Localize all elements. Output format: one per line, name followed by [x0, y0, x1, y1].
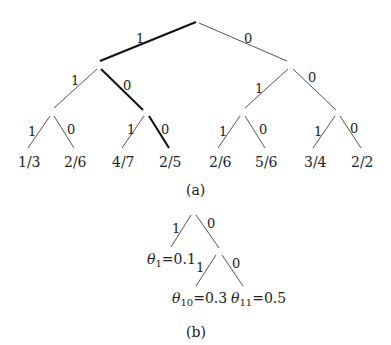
edge-label: 0 — [259, 122, 267, 137]
leaf-theta-10: θ10=0.3 — [172, 290, 227, 308]
edge-label: 0 — [161, 122, 169, 137]
edge-l2-1 — [245, 69, 288, 108]
leaf-theta-11: θ11=0.5 — [231, 290, 286, 308]
edge-root-0 — [199, 23, 287, 61]
tree-diagrams: 1 0 1 0 1 0 1 0 1 0 1 0 1 0 1/3 2/6 4/7 … — [0, 0, 391, 345]
tree-b: 1 0 1 0 θ1=0.1 θ10=0.3 θ11=0.5 (b) — [147, 215, 286, 340]
edge-label: 0 — [207, 216, 215, 231]
leaf-value: 4/7 — [112, 154, 135, 170]
edge-label: 1 — [314, 124, 322, 139]
edge-label: 0 — [123, 78, 131, 93]
edge-label: 1 — [28, 124, 36, 139]
edge-root-1 — [100, 22, 196, 61]
edge-label: 0 — [232, 256, 240, 271]
edge-label: 1 — [196, 260, 204, 275]
leaf-value: 5/6 — [255, 154, 278, 170]
edge-label: 1 — [71, 73, 79, 88]
leaf-value: 2/6 — [209, 154, 232, 170]
leaf-value: 2/5 — [159, 154, 182, 170]
leaf-value: 2/2 — [351, 154, 374, 170]
caption-a: (a) — [186, 182, 205, 198]
tree-a: 1 0 1 0 1 0 1 0 1 0 1 0 1 0 1/3 2/6 4/7 … — [18, 22, 374, 198]
edge-label: 1 — [136, 31, 144, 46]
edge-label: 0 — [350, 121, 358, 136]
edge-label: 0 — [67, 122, 75, 137]
edge-l2-0 — [101, 69, 143, 110]
edge-label: 1 — [255, 81, 263, 96]
leaf-value: 3/4 — [304, 154, 327, 170]
edge-label: 1 — [219, 124, 227, 139]
leaf-theta-1: θ1=0.1 — [147, 251, 196, 269]
leaf-value: 2/6 — [64, 154, 87, 170]
leaf-value: 1/3 — [18, 154, 41, 170]
edge-label: 0 — [308, 70, 316, 85]
edge-label: 1 — [127, 122, 135, 137]
edge-label: 1 — [172, 221, 180, 236]
figure-canvas: 1 0 1 0 1 0 1 0 1 0 1 0 1 0 1/3 2/6 4/7 … — [0, 0, 391, 345]
caption-b: (b) — [186, 324, 206, 340]
edge-label: 0 — [244, 31, 252, 46]
